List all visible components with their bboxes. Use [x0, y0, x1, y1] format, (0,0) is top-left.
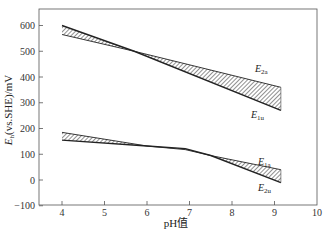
series-lines [62, 26, 281, 183]
y-tick-label: 100 [20, 149, 35, 160]
y-tick-label: −100 [14, 200, 35, 211]
x-tick-label: 9 [272, 207, 277, 218]
series-label-E2u: E2u [257, 182, 272, 195]
y-tick-label: 400 [20, 72, 35, 83]
y-tick-label: 500 [20, 46, 35, 57]
series-line-E2u [62, 140, 281, 182]
y-tick-label: 0 [30, 175, 35, 186]
x-tick-label: 10 [312, 207, 322, 218]
y-tick-label: 600 [20, 20, 35, 31]
y-axis-label: Eh(vs.SHE)/mV [2, 75, 16, 146]
y-tick-label: 200 [20, 123, 35, 134]
x-tick-label: 5 [102, 207, 107, 218]
series-label-E2a: E2a [254, 63, 269, 76]
series-label-E1u: E1u [250, 109, 265, 122]
x-tick-label: 4 [60, 207, 65, 218]
hatched-regions [62, 26, 281, 183]
x-axis-ticks: 45678910 [60, 201, 323, 218]
chart: −1000100200300400500600 45678910 E2aE1uE… [0, 0, 330, 241]
x-tick-label: 8 [230, 207, 235, 218]
x-axis-label: pH值 [164, 217, 188, 229]
y-tick-label: 300 [20, 97, 35, 108]
x-tick-label: 6 [145, 207, 150, 218]
